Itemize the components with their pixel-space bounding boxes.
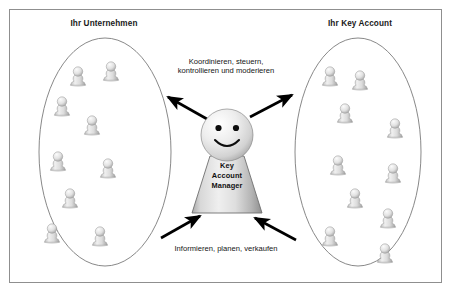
flow-label-bottom: Informieren, planen, verkaufen <box>150 244 302 253</box>
kam-label-line2: Account <box>200 171 254 181</box>
diagram-canvas: Ihr Unternehmen Ihr Key Account Koordini… <box>0 0 453 294</box>
kam-label-line3: Manager <box>200 181 254 191</box>
diagram-frame <box>9 9 442 283</box>
flow-label-top-line1: Koordinieren, steuern, <box>158 57 294 66</box>
flow-label-top-line2: kontrollieren und moderieren <box>158 66 294 75</box>
kam-label-line1: Key <box>200 161 254 171</box>
flow-label-top: Koordinieren, steuern, kontrollieren und… <box>158 57 294 76</box>
key-account-manager-label: Key Account Manager <box>200 161 254 190</box>
group-title-right: Ihr Key Account <box>300 19 420 29</box>
group-title-left: Ihr Unternehmen <box>44 19 164 29</box>
